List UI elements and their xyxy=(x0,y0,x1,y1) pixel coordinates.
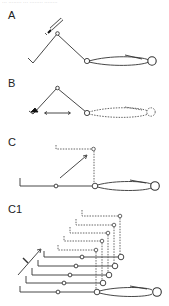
panel-c1-figure xyxy=(18,210,161,297)
panel-c-figure xyxy=(20,145,159,191)
panel-a-figure xyxy=(28,19,156,65)
c1-row-3 xyxy=(32,268,112,278)
c1-row-2 xyxy=(26,276,106,286)
diagonal-arrow-icon xyxy=(60,155,87,178)
diagram-canvas xyxy=(0,0,169,306)
c1-row-4 xyxy=(38,260,118,269)
panel-b-figure xyxy=(29,86,155,117)
double-arrow-icon xyxy=(45,112,71,115)
c1-row-1 xyxy=(20,286,161,297)
foot-stimulus-icon xyxy=(31,108,38,112)
c1-row-5 xyxy=(44,251,124,260)
